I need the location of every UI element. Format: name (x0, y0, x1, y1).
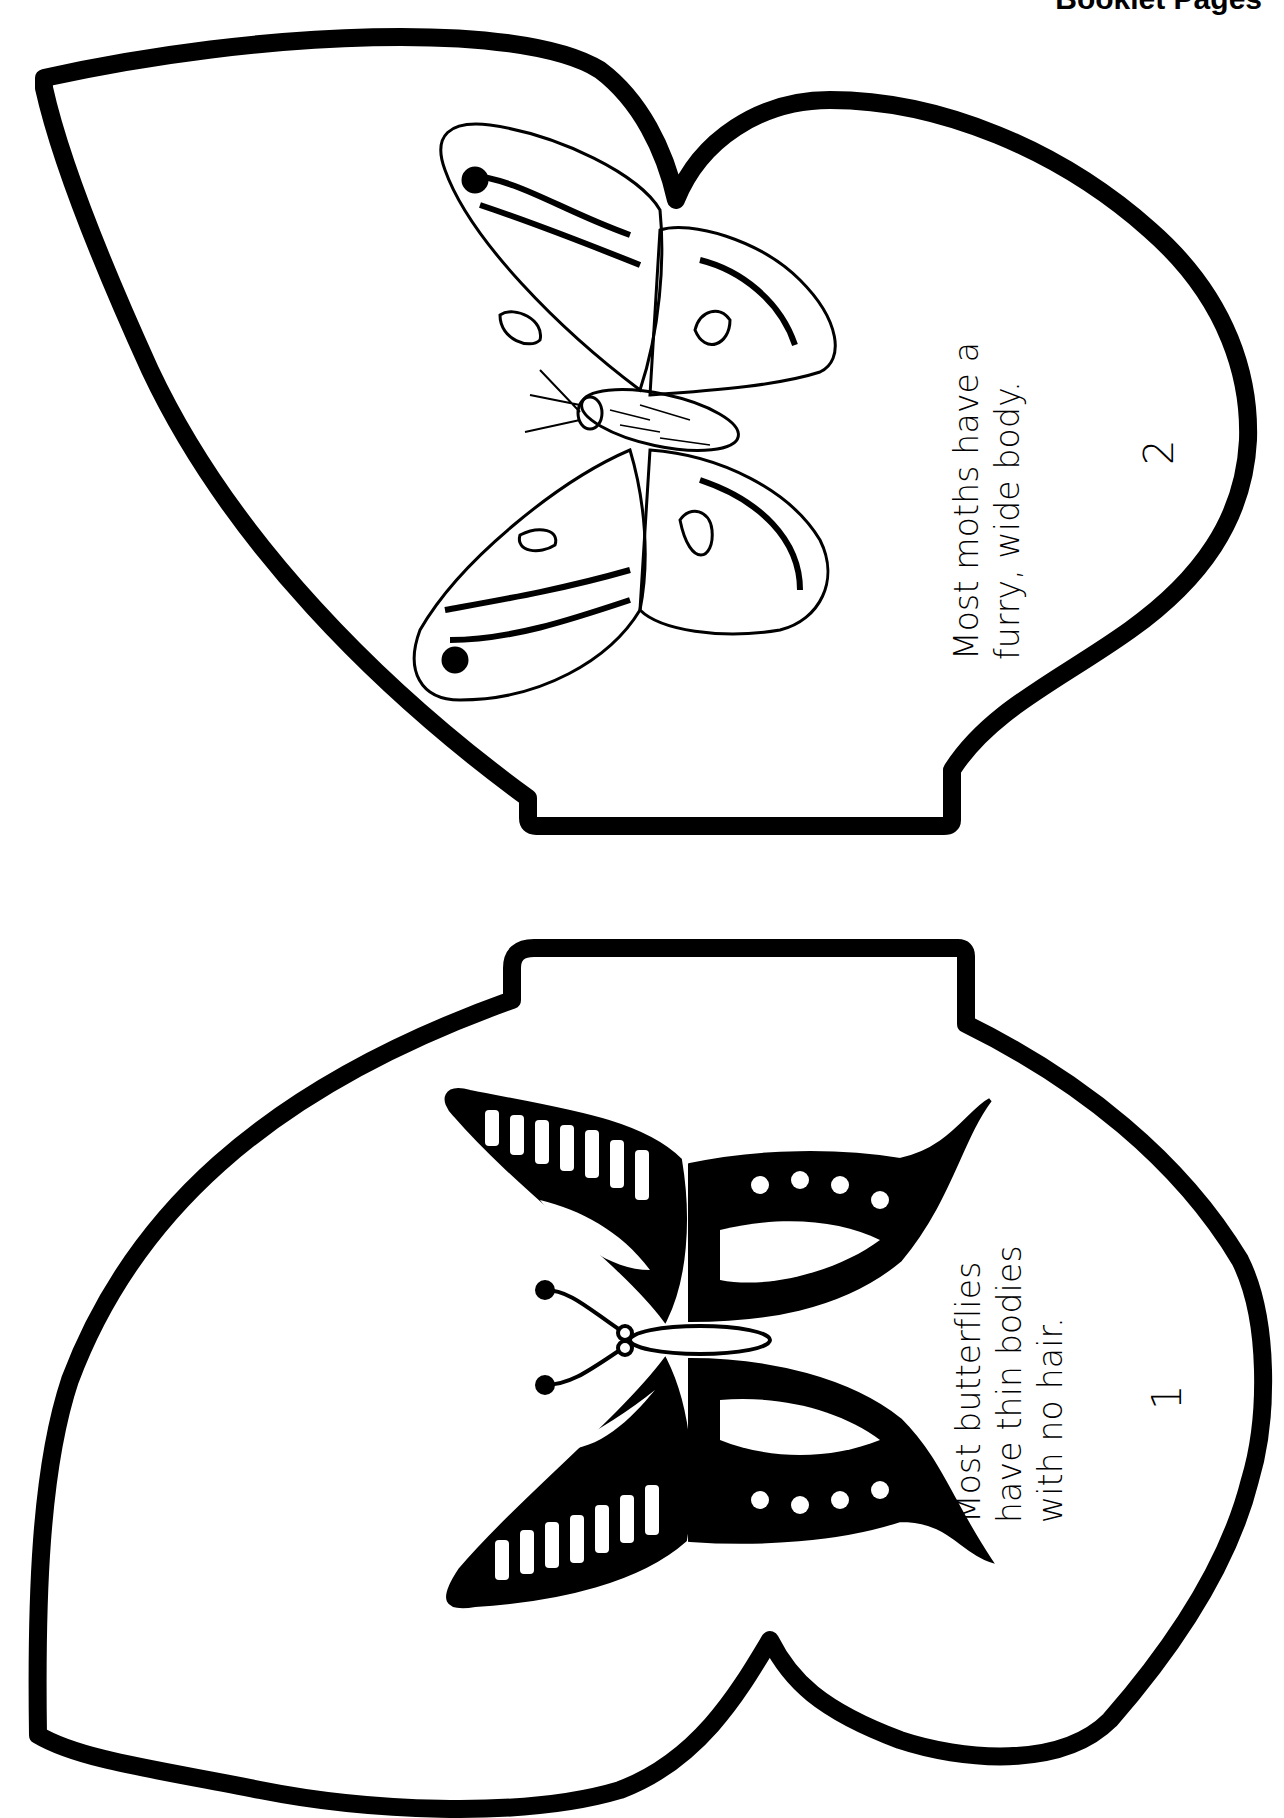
butterfly-lower-forewing (448, 1360, 690, 1606)
page-1-number: 1 (1144, 1385, 1190, 1410)
butterfly-lower-hindwing (690, 1360, 990, 1560)
page-2-caption: Most moths have a furry, wide body. (946, 342, 1028, 660)
butterfly-upper-forewing (447, 1090, 685, 1320)
butterfly-upper-hindwing (690, 1100, 990, 1320)
butterfly-body (630, 1326, 770, 1354)
page-2-caption-line-1: Most moths have a (946, 342, 987, 660)
page-1-caption-line-1: Most butterflies (948, 1245, 989, 1523)
swallowtail-butterfly-illustration (447, 1090, 990, 1606)
moth-upper-forewing (441, 124, 662, 390)
page-1-caption-line-3: with no hair. (1030, 1245, 1071, 1523)
booklet-pages-canvas (0, 0, 1284, 1818)
moth-lower-hindwing (640, 450, 828, 634)
page-2-number: 2 (1136, 440, 1182, 465)
page-2-cut-outline (44, 37, 1248, 826)
moth-illustration (414, 124, 835, 700)
moth-upper-hindwing (650, 227, 835, 395)
page-2-caption-line-2: furry, wide body. (987, 342, 1028, 660)
page-1-caption: Most butterflies have thin bodies with n… (948, 1245, 1071, 1523)
page-1-caption-line-2: have thin bodies (989, 1245, 1030, 1523)
